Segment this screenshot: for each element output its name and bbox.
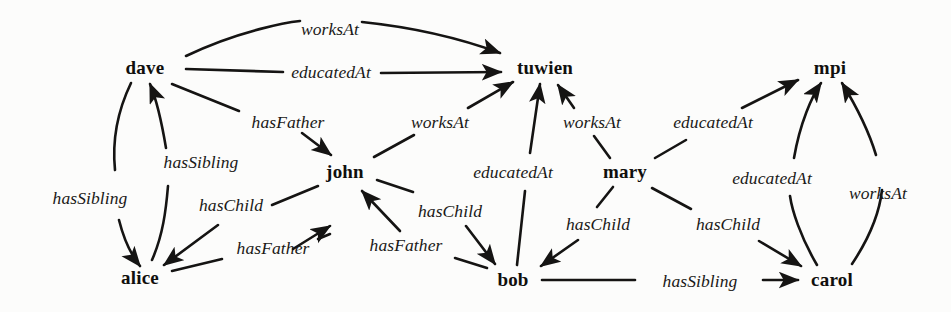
edge-label-john-worksAt-tuwien: worksAt <box>411 112 469 133</box>
edge-label-dave-hasSibling-alice: hasSibling <box>53 188 128 209</box>
edge-dave-worksAt-tuwien <box>186 21 300 56</box>
edge-dave-hasSibling-alice <box>119 220 140 266</box>
edge-carol-worksAt-mpi <box>842 83 876 155</box>
edge-label-john-hasChild-alice: hasChild <box>199 195 263 216</box>
edge-dave-hasFather-john <box>172 84 239 111</box>
edge-mary-hasChild-carol <box>652 188 691 209</box>
edge-label-alice-hasFather-john: hasFather <box>237 238 310 259</box>
node-carol: carol <box>811 269 853 291</box>
node-mary: mary <box>603 161 647 183</box>
edge-label-alice-hasSibling-dave: hasSibling <box>164 152 239 173</box>
graph-edges-canvas <box>0 0 951 312</box>
edge-dave-educatedAt-tuwien <box>186 69 283 72</box>
edge-dave-hasSibling-alice <box>114 83 131 170</box>
edge-alice-hasSibling-dave <box>150 84 166 148</box>
node-bob: bob <box>497 269 528 291</box>
edge-dave-hasFather-john <box>302 133 331 155</box>
edge-mary-worksAt-tuwien <box>558 85 574 108</box>
edge-label-mary-hasChild-bob: hasChild <box>566 214 630 235</box>
edge-john-hasChild-bob <box>466 226 495 264</box>
edge-mary-worksAt-tuwien <box>594 136 610 158</box>
edge-label-bob-hasFather-john: hasFather <box>370 235 443 256</box>
node-dave: dave <box>126 57 165 79</box>
knowledge-graph-figure: davetuwienmpijohnmaryalicebobcarol works… <box>0 0 951 312</box>
edge-label-dave-worksAt-tuwien: worksAt <box>301 19 359 40</box>
edge-john-worksAt-tuwien <box>468 82 513 108</box>
edge-bob-educatedAt-tuwien <box>517 191 525 265</box>
edge-label-dave-hasFather-john: hasFather <box>252 112 325 133</box>
edge-john-hasChild-bob <box>377 180 413 192</box>
edge-carol-educatedAt-mpi <box>790 196 817 265</box>
node-john: john <box>326 161 364 183</box>
edge-bob-hasFather-john <box>362 191 400 231</box>
edge-bob-hasFather-john <box>455 258 487 268</box>
node-mpi: mpi <box>814 57 846 79</box>
edge-bob-educatedAt-tuwien <box>530 84 540 153</box>
edge-label-mary-worksAt-tuwien: worksAt <box>563 112 621 133</box>
edge-label-carol-educatedAt-mpi: educatedAt <box>732 168 812 189</box>
edge-mary-hasChild-bob <box>597 187 613 207</box>
edge-john-worksAt-tuwien <box>374 135 414 157</box>
edge-alice-hasSibling-dave <box>152 186 168 260</box>
edge-mary-educatedAt-mpi <box>655 140 686 158</box>
edge-mary-hasChild-carol <box>759 241 801 266</box>
edge-dave-educatedAt-tuwien <box>381 72 501 73</box>
edge-alice-hasFather-john <box>318 234 330 239</box>
edge-label-mary-educatedAt-mpi: educatedAt <box>673 112 753 133</box>
edge-label-dave-educatedAt-tuwien: educatedAt <box>291 62 371 83</box>
edge-label-john-hasChild-bob: hasChild <box>418 201 482 222</box>
edge-alice-hasFather-john <box>172 259 222 271</box>
edge-john-hasChild-alice <box>272 186 318 205</box>
edge-label-bob-educatedAt-tuwien: educatedAt <box>473 162 553 183</box>
edge-mary-hasChild-bob <box>541 240 578 266</box>
edge-dave-worksAt-tuwien <box>362 22 500 53</box>
edge-carol-educatedAt-mpi <box>794 83 821 158</box>
edge-label-bob-hasSibling-carol: hasSibling <box>663 271 738 292</box>
edge-label-mary-hasChild-carol: hasChild <box>696 214 760 235</box>
edge-mary-educatedAt-mpi <box>742 80 798 108</box>
node-tuwien: tuwien <box>517 57 573 79</box>
edge-label-carol-worksAt-mpi: worksAt <box>849 183 907 204</box>
node-alice: alice <box>121 267 159 289</box>
edge-path-group <box>114 21 882 280</box>
edge-john-hasChild-alice <box>164 225 218 265</box>
